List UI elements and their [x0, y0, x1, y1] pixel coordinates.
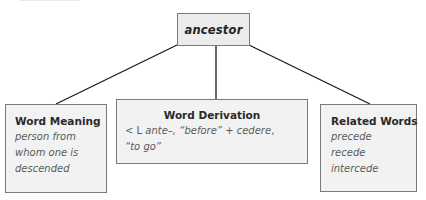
derivation-prefix: < L — [125, 125, 145, 136]
gloss-before: , “before” + — [173, 125, 237, 136]
connector-to-word-meaning — [56, 45, 177, 104]
word-meaning-box: Word Meaning person from whom one is des… — [5, 104, 107, 193]
trailing-comma: , — [271, 125, 274, 136]
latin-root-cedere: cedere — [237, 125, 271, 136]
word-derivation-heading: Word Derivation — [125, 107, 307, 123]
related-word-item: intercede — [331, 161, 416, 177]
connector-to-related-words — [249, 45, 370, 104]
related-word-item: precede — [331, 129, 416, 145]
word-derivation-box: Word Derivation < L ante–, “before” + ce… — [116, 99, 308, 164]
related-words-heading: Related Words — [331, 113, 416, 129]
word-meaning-line: descended — [15, 161, 106, 177]
root-node-label: ancestor — [184, 23, 242, 37]
word-meaning-line: whom one is — [15, 145, 106, 161]
latin-root-ante: ante– — [145, 125, 173, 136]
related-word-item: recede — [331, 145, 416, 161]
word-meaning-heading: Word Meaning — [15, 113, 106, 129]
word-meaning-line: person from — [15, 129, 106, 145]
word-derivation-line-1: < L ante–, “before” + cedere, — [125, 123, 307, 139]
root-node-box: ancestor — [177, 13, 250, 46]
related-words-box: Related Words precede recede intercede — [320, 104, 417, 192]
word-derivation-line-2: “to go” — [125, 139, 307, 155]
